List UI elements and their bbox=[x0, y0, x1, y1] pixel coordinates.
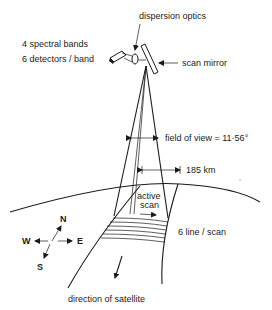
compass-north: N bbox=[60, 214, 67, 224]
speck-mark bbox=[239, 179, 240, 180]
compass-icon bbox=[35, 226, 72, 258]
dispersion-optics-label: dispersion optics bbox=[139, 11, 207, 21]
active-scan-label-2: scan bbox=[140, 200, 159, 210]
direction-arrow bbox=[115, 256, 122, 278]
scan-mirror-label: scan mirror bbox=[182, 58, 227, 68]
direction-label: direction of satellite bbox=[68, 294, 145, 304]
scan-mirror-icon bbox=[141, 44, 158, 74]
landsat-mss-scan-diagram: field of view = 11·56° 185 km scan mirro… bbox=[0, 0, 272, 310]
lines-per-scan-label: 6 line / scan bbox=[178, 227, 226, 237]
spectral-bands-label: 4 spectral bands bbox=[22, 39, 89, 49]
dispersion-optics-icon bbox=[109, 51, 146, 64]
scan-lines bbox=[101, 218, 168, 242]
dispersion-optics-pointer bbox=[135, 24, 140, 50]
swath-label: 185 km bbox=[186, 165, 216, 175]
compass-south: S bbox=[37, 262, 43, 272]
fov-label: field of view = 11·56° bbox=[165, 133, 249, 143]
active-scan-arrow bbox=[140, 214, 156, 215]
compass-east: E bbox=[77, 236, 83, 246]
compass-west: W bbox=[22, 236, 31, 246]
detectors-label: 6 detectors / band bbox=[22, 54, 94, 64]
